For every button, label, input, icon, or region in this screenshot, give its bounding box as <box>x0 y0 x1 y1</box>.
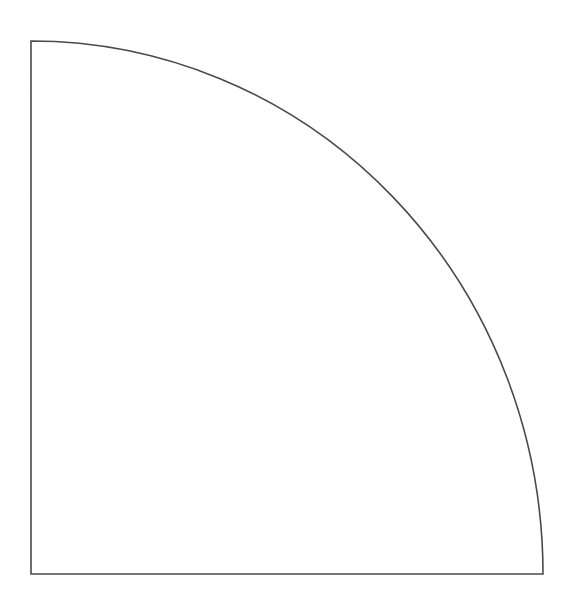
canvas-background <box>0 0 569 595</box>
figure-canvas <box>0 0 569 595</box>
quarter-circle-diagram <box>0 0 569 595</box>
